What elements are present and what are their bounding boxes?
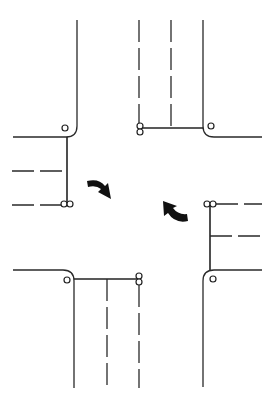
signal-icon — [210, 201, 216, 207]
signal-icon — [204, 201, 210, 207]
signal-icon — [208, 123, 214, 129]
north-approach — [137, 20, 203, 135]
signal-icon — [136, 279, 142, 285]
signal-icon — [62, 125, 68, 131]
signal-icon — [136, 273, 142, 279]
corner-southwest — [13, 270, 74, 388]
turn-arrow-east-icon — [163, 201, 188, 222]
east-approach — [204, 201, 262, 270]
signal-icon — [137, 123, 143, 129]
signal-icon — [210, 276, 216, 282]
signal-icon — [61, 201, 67, 207]
corner-northeast — [203, 20, 262, 137]
signal-icon — [137, 129, 143, 135]
signal-icon — [64, 277, 70, 283]
south-approach — [74, 273, 142, 388]
signal-icon — [67, 201, 73, 207]
corner-northwest — [13, 20, 77, 137]
turn-arrow-west-icon — [87, 180, 111, 199]
corner-southeast — [203, 270, 262, 387]
west-approach — [12, 137, 73, 207]
intersection-diagram: Four-way road intersection with turn arr… — [0, 0, 275, 411]
